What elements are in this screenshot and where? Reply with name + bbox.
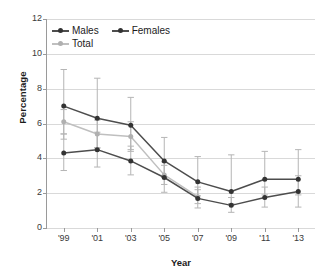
y-axis-title: Percentage xyxy=(17,58,28,138)
error-bars-males xyxy=(61,70,302,204)
legend-label-males: Males xyxy=(72,24,99,37)
x-axis-title: Year xyxy=(47,257,315,268)
legend-marker-icon xyxy=(52,38,69,49)
legend-marker-icon xyxy=(52,25,69,36)
legend-label-females: Females xyxy=(132,24,170,37)
legend-label-total: Total xyxy=(72,37,93,50)
legend: Males Females Total xyxy=(52,24,183,50)
line-chart: 121086420 '99'01'03'05'07'09'11'13 Perce… xyxy=(0,0,319,276)
legend-marker-icon xyxy=(112,25,129,36)
legend-item-total[interactable]: Total xyxy=(52,37,93,50)
legend-item-males[interactable]: Males xyxy=(52,24,99,37)
legend-item-females[interactable]: Females xyxy=(112,24,170,37)
legend-row-2: Total xyxy=(52,37,183,50)
legend-row-1: Males Females xyxy=(52,24,183,37)
